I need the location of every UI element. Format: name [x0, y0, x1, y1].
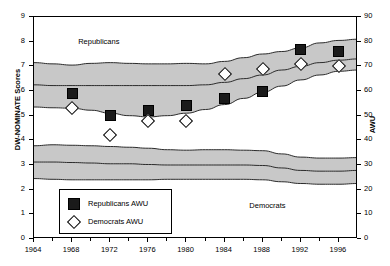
- y-tick-label-right-70: 70: [364, 61, 386, 69]
- x-tick-1988: [262, 238, 263, 242]
- y-tick-label-right-20: 20: [364, 185, 386, 193]
- x-tick-minor-1970: [90, 238, 91, 241]
- y-tick-label-left-3: 3: [3, 160, 25, 168]
- x-tick-label-1992: 1992: [285, 246, 315, 254]
- x-tick-1992: [300, 238, 301, 242]
- y-tick-label-right-30: 30: [364, 160, 386, 168]
- y-tick-label-left-9: 9: [3, 12, 25, 20]
- marker-republicans-1996: [333, 46, 344, 57]
- x-tick-label-1984: 1984: [209, 246, 239, 254]
- x-tick-1968: [71, 238, 72, 242]
- marker-republicans-1984: [219, 93, 230, 104]
- y-tick-label-right-50: 50: [364, 111, 386, 119]
- y-tick-label-left-2: 2: [3, 185, 25, 193]
- y-tick-label-right-10: 10: [364, 209, 386, 217]
- x-tick-minor-1978: [166, 238, 167, 241]
- x-tick-label-1968: 1968: [56, 246, 86, 254]
- marker-republicans-1968: [67, 88, 78, 99]
- y-tick-right-20: [357, 189, 361, 190]
- y-tick-label-left-0: 0: [3, 234, 25, 242]
- x-tick-1996: [338, 238, 339, 242]
- y-tick-label-right-90: 90: [364, 12, 386, 20]
- y-tick-right-90: [357, 16, 361, 17]
- marker-republicans-1992: [295, 44, 306, 55]
- y-tick-right-30: [357, 164, 361, 165]
- y-tick-label-right-0: 0: [364, 234, 386, 242]
- legend-label-democrats: Democrats AWU: [88, 217, 143, 226]
- y-tick-right-60: [357, 90, 361, 91]
- x-tick-minor-1990: [281, 238, 282, 241]
- chart-container: DW-NOMINATE Scores AWU 0123456789 010203…: [0, 0, 390, 266]
- x-tick-minor-1974: [128, 238, 129, 241]
- x-tick-1984: [224, 238, 225, 242]
- y-tick-right-50: [357, 115, 361, 116]
- x-tick-minor-1986: [243, 238, 244, 241]
- x-tick-label-1976: 1976: [132, 246, 162, 254]
- x-tick-label-1996: 1996: [323, 246, 353, 254]
- x-tick-1964: [33, 238, 34, 242]
- y-tick-label-left-4: 4: [3, 135, 25, 143]
- y-tick-label-left-5: 5: [3, 111, 25, 119]
- band-label-republicans: Republicans: [78, 37, 119, 46]
- y-tick-right-40: [357, 139, 361, 140]
- filled-square-icon: [68, 198, 80, 210]
- marker-republicans-1988: [257, 86, 268, 97]
- band-label-democrats: Democrats: [249, 201, 285, 210]
- open-diamond-icon: [67, 215, 81, 229]
- y-tick-label-right-80: 80: [364, 37, 386, 45]
- marker-republicans-1980: [181, 100, 192, 111]
- y-tick-label-left-7: 7: [3, 61, 25, 69]
- chart-legend: Republicans AWU Democrats AWU: [59, 189, 172, 234]
- y-tick-label-right-40: 40: [364, 135, 386, 143]
- x-tick-label-1972: 1972: [94, 246, 124, 254]
- x-tick-label-1988: 1988: [247, 246, 277, 254]
- y-tick-right-80: [357, 41, 361, 42]
- x-tick-minor-1966: [52, 238, 53, 241]
- y-tick-label-left-6: 6: [3, 86, 25, 94]
- y-tick-label-left-1: 1: [3, 209, 25, 217]
- y-tick-label-right-60: 60: [364, 86, 386, 94]
- x-tick-label-1980: 1980: [170, 246, 200, 254]
- x-tick-1976: [147, 238, 148, 242]
- x-tick-minor-1982: [205, 238, 206, 241]
- x-tick-1972: [109, 238, 110, 242]
- x-tick-label-1964: 1964: [18, 246, 48, 254]
- y-tick-right-10: [357, 213, 361, 214]
- legend-label-republicans: Republicans AWU: [88, 199, 148, 208]
- y-tick-right-0: [357, 238, 361, 239]
- marker-republicans-1972: [105, 110, 116, 121]
- x-tick-1980: [185, 238, 186, 242]
- y-tick-label-left-8: 8: [3, 37, 25, 45]
- x-tick-minor-1994: [319, 238, 320, 241]
- y-tick-right-70: [357, 65, 361, 66]
